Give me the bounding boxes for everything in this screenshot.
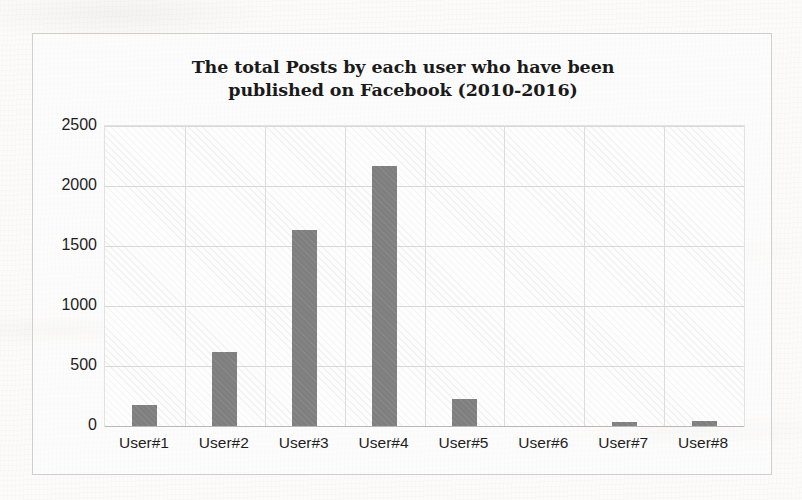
bar-user-4 (372, 166, 397, 426)
gridline-x-7 (664, 126, 665, 426)
y-tick-label-1500: 1500 (37, 236, 97, 254)
chart-title-line-1: The total Posts by each user who have be… (93, 56, 713, 79)
gridline-x-3 (345, 126, 346, 426)
y-tick-label-500: 500 (37, 356, 97, 374)
bar-user-1 (132, 405, 157, 426)
y-tick-label-1000: 1000 (37, 296, 97, 314)
x-tick-label-user-7: User#7 (583, 434, 663, 462)
x-tick-label-user-8: User#8 (663, 434, 743, 462)
y-axis-tick-labels: 05001000150020002500 (33, 125, 97, 425)
x-axis-tick-labels: User#1User#2User#3User#4User#5User#6User… (104, 434, 743, 462)
x-tick-label-user-6: User#6 (503, 434, 583, 462)
gridline-x-4 (425, 126, 426, 426)
bar-user-5 (452, 399, 477, 426)
x-tick-label-user-2: User#2 (184, 434, 264, 462)
chart-title-line-2: published on Facebook (2010-2016) (93, 79, 713, 102)
x-tick-label-user-1: User#1 (104, 434, 184, 462)
scanned-page: The total Posts by each user who have be… (0, 0, 802, 500)
x-axis-line (105, 426, 744, 427)
bar-user-3 (292, 230, 317, 426)
y-tick-label-0: 0 (37, 416, 97, 434)
gridline-x-5 (504, 126, 505, 426)
chart-frame: The total Posts by each user who have be… (32, 33, 772, 475)
chart-title: The total Posts by each user who have be… (93, 56, 713, 102)
gridline-x-6 (584, 126, 585, 426)
plot-area (104, 125, 745, 427)
gridline-x-2 (265, 126, 266, 426)
bar-user-2 (212, 352, 237, 426)
x-tick-label-user-3: User#3 (264, 434, 344, 462)
y-tick-label-2000: 2000 (37, 176, 97, 194)
x-tick-label-user-5: User#5 (424, 434, 504, 462)
x-tick-label-user-4: User#4 (344, 434, 424, 462)
y-tick-label-2500: 2500 (37, 116, 97, 134)
gridline-x-1 (185, 126, 186, 426)
